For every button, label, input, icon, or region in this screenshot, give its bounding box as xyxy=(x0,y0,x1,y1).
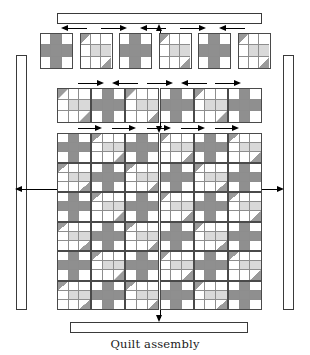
patch xyxy=(195,193,206,202)
plus-block xyxy=(125,192,159,222)
patch-grid xyxy=(195,282,227,310)
patch xyxy=(240,143,251,152)
patch-grid xyxy=(229,164,261,192)
patch xyxy=(195,241,206,250)
patch xyxy=(209,57,219,68)
triangle-block xyxy=(57,281,91,311)
patch xyxy=(114,143,125,152)
half-square-triangle-icon xyxy=(182,270,193,279)
patch xyxy=(114,232,125,241)
patch xyxy=(148,261,159,270)
plus-block xyxy=(198,33,231,69)
patch xyxy=(69,152,80,161)
patch xyxy=(171,261,182,270)
patch xyxy=(171,164,182,173)
patch xyxy=(205,223,216,232)
patch xyxy=(199,45,209,56)
patch xyxy=(205,89,216,100)
patch xyxy=(229,261,240,270)
arrow-right-icon xyxy=(215,79,241,87)
plus-block xyxy=(194,192,228,222)
patch xyxy=(137,252,148,261)
patch xyxy=(103,291,114,300)
patch xyxy=(250,152,261,161)
patch xyxy=(240,252,251,261)
triangle-block xyxy=(91,192,125,222)
patch xyxy=(141,57,151,68)
triangle-block xyxy=(125,163,159,193)
plus-block xyxy=(119,33,152,69)
half-square-triangle-icon xyxy=(148,111,159,122)
patch xyxy=(250,173,261,182)
arrow-right-icon xyxy=(147,124,171,132)
patch xyxy=(205,182,216,191)
patch xyxy=(92,202,103,211)
patch-grid xyxy=(199,34,230,68)
half-square-triangle-icon xyxy=(195,164,205,172)
patch xyxy=(216,182,227,191)
patch xyxy=(126,291,137,300)
patch xyxy=(239,45,249,56)
patch-grid xyxy=(126,164,158,192)
patch xyxy=(137,173,148,182)
patch xyxy=(137,291,148,300)
patch-grid xyxy=(229,193,261,221)
patch xyxy=(250,202,261,211)
right-border-strip xyxy=(283,55,294,310)
patch-grid xyxy=(92,89,124,122)
patch xyxy=(216,300,227,309)
patch-grid xyxy=(58,134,90,162)
patch xyxy=(216,143,227,152)
patch xyxy=(62,34,72,45)
patch xyxy=(148,111,159,122)
patch xyxy=(195,223,206,232)
patch xyxy=(114,291,125,300)
patch xyxy=(171,152,182,161)
patch xyxy=(58,300,69,309)
patch xyxy=(114,193,125,202)
patch-grid xyxy=(126,134,158,162)
patch xyxy=(205,211,216,220)
patch xyxy=(205,193,216,202)
patch xyxy=(69,111,80,122)
plus-block xyxy=(228,88,262,123)
patch-grid xyxy=(195,89,227,122)
triangle-block xyxy=(57,222,91,252)
patch xyxy=(92,282,103,291)
plus-block xyxy=(91,281,125,311)
patch xyxy=(79,143,90,152)
patch xyxy=(69,182,80,191)
patch xyxy=(250,270,261,279)
arrow-left-icon xyxy=(140,24,166,32)
patch xyxy=(101,57,111,68)
patch xyxy=(137,232,148,241)
patch xyxy=(81,57,91,68)
patch xyxy=(182,164,193,173)
triangle-block xyxy=(80,33,113,69)
patch-grid xyxy=(239,34,270,68)
patch xyxy=(180,45,190,56)
patch xyxy=(205,261,216,270)
patch xyxy=(148,300,159,309)
patch xyxy=(137,100,148,111)
patch xyxy=(161,211,172,220)
patch xyxy=(114,111,125,122)
patch xyxy=(195,111,206,122)
patch xyxy=(205,282,216,291)
patch-grid xyxy=(161,89,193,122)
patch xyxy=(79,282,90,291)
patch xyxy=(101,45,111,56)
patch xyxy=(171,223,182,232)
arrow-right-icon xyxy=(101,24,127,32)
patch xyxy=(79,300,90,309)
patch xyxy=(92,223,103,232)
patch xyxy=(182,134,193,143)
bottom-border-strip xyxy=(70,322,248,333)
patch xyxy=(126,241,137,250)
patch xyxy=(180,34,190,45)
half-square-triangle-icon xyxy=(182,152,193,161)
patch xyxy=(161,152,172,161)
patch xyxy=(220,45,230,56)
triangle-block xyxy=(125,281,159,311)
patch xyxy=(229,223,240,232)
